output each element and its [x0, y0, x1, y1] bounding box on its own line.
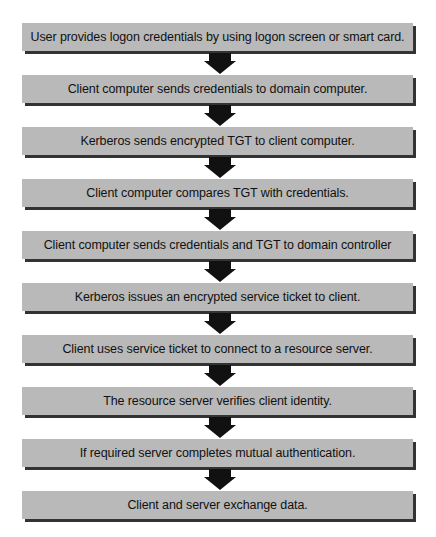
down-arrow-icon	[204, 313, 236, 334]
flow-step-6: Kerberos issues an encrypted service tic…	[22, 283, 413, 311]
flow-step-10: Client and server exchange data.	[22, 491, 413, 519]
down-arrow-icon	[204, 417, 236, 438]
kerberos-auth-flowchart: User provides logon credentials by using…	[0, 0, 436, 537]
flow-step-4: Client computer compares TGT with creden…	[22, 179, 413, 207]
flow-step-9: If required server completes mutual auth…	[22, 439, 413, 467]
step-label: User provides logon credentials by using…	[31, 30, 405, 44]
step-label: Client and server exchange data.	[127, 498, 307, 512]
down-arrow-icon	[204, 53, 236, 74]
step-label: Client computer sends credentials to dom…	[68, 82, 368, 96]
down-arrow-icon	[204, 469, 236, 490]
step-label: Client computer sends credentials and TG…	[44, 238, 392, 252]
flow-step-1: User provides logon credentials by using…	[22, 23, 413, 51]
step-label: Client uses service ticket to connect to…	[62, 342, 372, 356]
down-arrow-icon	[204, 365, 236, 386]
step-label: Kerberos issues an encrypted service tic…	[75, 290, 361, 304]
step-label: Kerberos sends encrypted TGT to client c…	[80, 134, 354, 148]
flow-step-3: Kerberos sends encrypted TGT to client c…	[22, 127, 413, 155]
down-arrow-icon	[204, 261, 236, 282]
step-label: Client computer compares TGT with creden…	[86, 186, 348, 200]
flow-step-2: Client computer sends credentials to dom…	[22, 75, 413, 103]
flow-step-8: The resource server verifies client iden…	[22, 387, 413, 415]
down-arrow-icon	[204, 157, 236, 178]
step-label: The resource server verifies client iden…	[103, 394, 332, 408]
step-label: If required server completes mutual auth…	[80, 446, 356, 460]
flow-step-5: Client computer sends credentials and TG…	[22, 231, 413, 259]
flow-step-7: Client uses service ticket to connect to…	[22, 335, 413, 363]
down-arrow-icon	[204, 105, 236, 126]
down-arrow-icon	[204, 209, 236, 230]
